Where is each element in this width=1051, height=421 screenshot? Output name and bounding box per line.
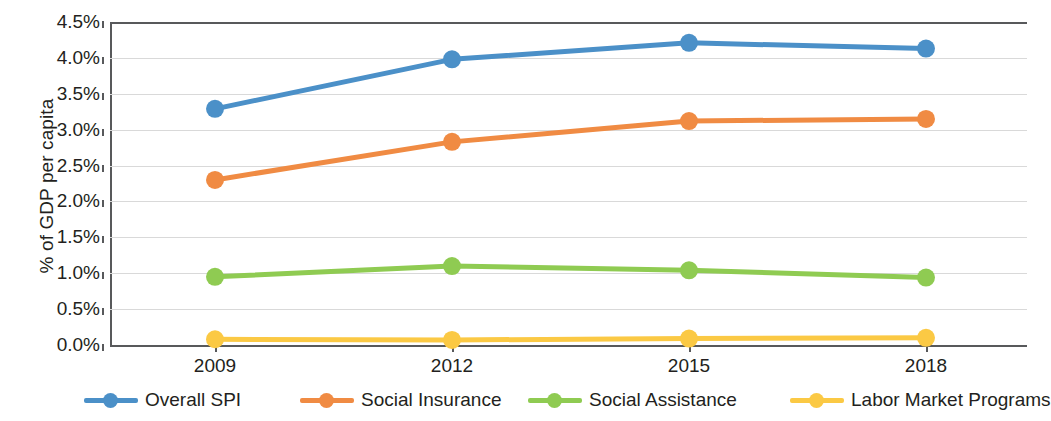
data-point[interactable] xyxy=(206,171,224,189)
chart-legend: Overall SPISocial InsuranceSocial Assist… xyxy=(0,390,1039,418)
y-axis-tick-label: 1.0% xyxy=(38,263,100,282)
data-point[interactable] xyxy=(443,50,461,68)
legend-marker-icon xyxy=(790,391,844,409)
data-point[interactable] xyxy=(917,110,935,128)
legend-dot xyxy=(809,393,824,408)
legend-item-overall-spi[interactable]: Overall SPI xyxy=(84,390,241,410)
y-axis-tick-label: 3.0% xyxy=(38,120,100,139)
legend-dot xyxy=(319,393,334,408)
legend-dot xyxy=(547,393,562,408)
legend-dot xyxy=(103,393,118,408)
y-axis-tickmark xyxy=(102,129,104,136)
y-axis-tickmark xyxy=(102,57,104,64)
y-axis-tick-labels: 4.5%4.0%3.5%3.0%2.5%2.0%1.5%1.0%0.5%0.0% xyxy=(38,0,100,421)
y-axis-tickmark xyxy=(102,165,104,172)
data-point[interactable] xyxy=(206,268,224,286)
legend-label: Overall SPI xyxy=(145,390,241,410)
legend-item-social-insurance[interactable]: Social Insurance xyxy=(300,390,501,410)
series-line xyxy=(215,338,926,340)
y-axis-tickmark xyxy=(102,21,104,28)
series-line xyxy=(215,43,926,109)
legend-item-social-assistance[interactable]: Social Assistance xyxy=(528,390,737,410)
legend-marker-icon xyxy=(300,391,354,409)
y-axis-tick-label: 0.0% xyxy=(38,335,100,354)
series-line xyxy=(215,119,926,180)
x-axis-tick-labels: 2009201220152018 xyxy=(110,355,1027,383)
y-axis-tick-label: 1.5% xyxy=(38,227,100,246)
data-point[interactable] xyxy=(680,261,698,279)
series-social-assistance xyxy=(206,257,935,286)
data-point[interactable] xyxy=(680,34,698,52)
legend-marker-icon xyxy=(84,391,138,409)
y-axis-tickmark xyxy=(102,93,104,100)
data-point[interactable] xyxy=(917,40,935,58)
gridline xyxy=(110,345,1027,347)
data-point[interactable] xyxy=(206,100,224,118)
y-axis-tick-label: 2.0% xyxy=(38,191,100,210)
legend-label: Social Insurance xyxy=(361,390,501,410)
y-axis-tick-label: 4.0% xyxy=(38,48,100,67)
x-axis-tick-label: 2009 xyxy=(194,355,236,377)
legend-label: Labor Market Programs xyxy=(851,390,1051,410)
y-axis-tickmark xyxy=(102,344,104,351)
series-layer xyxy=(110,22,1027,345)
y-axis-tick-label: 3.5% xyxy=(38,84,100,103)
data-point[interactable] xyxy=(680,112,698,130)
data-point[interactable] xyxy=(443,331,461,349)
legend-item-labor-market-programs[interactable]: Labor Market Programs xyxy=(790,390,1051,410)
y-axis-tickmark xyxy=(102,200,104,207)
data-point[interactable] xyxy=(917,269,935,287)
x-axis-tick-label: 2012 xyxy=(431,355,473,377)
y-axis-tickmark xyxy=(102,272,104,279)
y-axis-tick-label: 4.5% xyxy=(38,12,100,31)
y-axis-tickmark xyxy=(102,236,104,243)
data-point[interactable] xyxy=(443,257,461,275)
y-axis-tick-label: 0.5% xyxy=(38,299,100,318)
plot-area xyxy=(110,22,1027,345)
series-social-insurance xyxy=(206,110,935,189)
series-line xyxy=(215,266,926,277)
x-axis-tick-label: 2015 xyxy=(668,355,710,377)
series-overall-spi xyxy=(206,34,935,118)
data-point[interactable] xyxy=(680,330,698,348)
x-axis-tick-label: 2018 xyxy=(905,355,947,377)
y-axis-tick-label: 2.5% xyxy=(38,156,100,175)
y-axis-tickmark xyxy=(102,308,104,315)
data-point[interactable] xyxy=(206,330,224,348)
data-point[interactable] xyxy=(443,133,461,151)
legend-marker-icon xyxy=(528,391,582,409)
legend-label: Social Assistance xyxy=(589,390,737,410)
data-point[interactable] xyxy=(917,329,935,347)
